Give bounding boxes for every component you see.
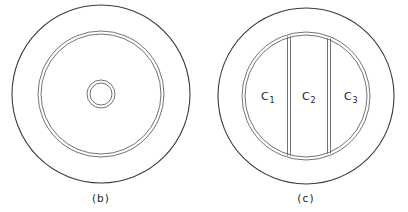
region-1-letter: C <box>261 90 269 103</box>
canvas-background <box>0 0 408 212</box>
figure-container: (b) C 1 C 2 C <box>0 0 408 212</box>
region-3-subscript: 3 <box>352 96 357 105</box>
region-2-letter: C <box>302 90 310 103</box>
region-1-subscript: 1 <box>269 96 274 105</box>
panel-c-caption: (c) <box>297 192 314 204</box>
technical-diagram-svg: (b) C 1 C 2 C <box>0 0 408 212</box>
panel-b-caption: (b) <box>92 192 110 204</box>
region-3-letter: C <box>344 90 352 103</box>
region-2-subscript: 2 <box>310 96 315 105</box>
